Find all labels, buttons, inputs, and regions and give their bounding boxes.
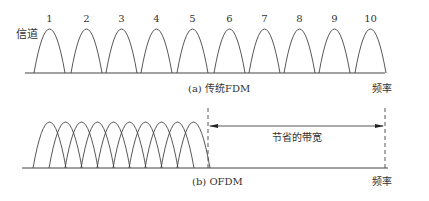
channel-number: 1 <box>46 13 52 24</box>
arrow-head-left-icon <box>209 124 218 128</box>
frequency-label-a: 频率 <box>372 82 392 94</box>
channel-number: 6 <box>226 13 232 24</box>
channel-arches <box>34 29 386 73</box>
channel-arch <box>214 29 245 73</box>
channel-number: 5 <box>189 13 195 24</box>
channel-number: 4 <box>153 13 159 24</box>
subcarrier-arch <box>49 122 82 168</box>
subcarrier-arch <box>161 122 194 168</box>
channel-arch <box>106 29 137 73</box>
saved-bandwidth-label: 节省的带宽 <box>272 131 322 143</box>
subcarrier-arch <box>177 122 210 168</box>
channel-number: 3 <box>118 13 124 24</box>
channel-arch <box>355 29 386 73</box>
saved-bandwidth-arrow <box>209 124 384 128</box>
subcarrier-arch <box>65 122 98 168</box>
frequency-label-b: 频率 <box>372 175 392 187</box>
caption-b: (b) OFDM <box>192 176 243 187</box>
channel-arch <box>249 29 280 73</box>
subcarrier-arch <box>33 122 66 168</box>
panel-b-ofdm: 节省的带宽 (b) OFDM 频率 <box>22 108 392 187</box>
fdm-vs-ofdm-diagram: 12345678910 信道 (a) 传统FDM 频率 节省的带宽 (b) OF… <box>0 0 429 201</box>
subcarrier-arch <box>113 122 146 168</box>
subcarrier-arch <box>145 122 178 168</box>
caption-a: (a) 传统FDM <box>188 82 250 94</box>
channel-number: 10 <box>364 13 377 24</box>
subcarrier-arch <box>129 122 162 168</box>
panel-a-traditional-fdm: 12345678910 信道 (a) 传统FDM 频率 <box>16 13 392 94</box>
channel-arch <box>319 29 350 73</box>
channel-number: 8 <box>296 13 302 24</box>
channel-arch <box>71 29 102 73</box>
subcarrier-arches <box>33 122 210 168</box>
channel-arch <box>177 29 208 73</box>
subcarrier-arch <box>97 122 130 168</box>
channel-arch <box>34 29 65 73</box>
channel-numbers: 12345678910 <box>46 13 377 24</box>
channel-number: 7 <box>261 13 267 24</box>
channel-number: 2 <box>83 13 89 24</box>
arrow-head-right-icon <box>375 124 384 128</box>
channel-axis-label: 信道 <box>16 27 38 41</box>
channel-arch <box>141 29 172 73</box>
channel-arch <box>284 29 315 73</box>
subcarrier-arch <box>81 122 114 168</box>
channel-number: 9 <box>331 13 337 24</box>
